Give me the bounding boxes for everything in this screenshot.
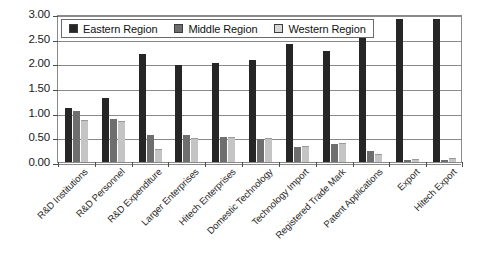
bar-eastern xyxy=(212,63,219,162)
bar-middle xyxy=(331,144,338,162)
bar-western xyxy=(375,154,382,162)
bar-eastern xyxy=(102,98,109,162)
legend-item: Eastern Region xyxy=(69,23,157,35)
bar-western xyxy=(412,159,419,162)
legend-swatch-icon xyxy=(174,24,183,33)
bar-western xyxy=(155,149,162,162)
bar-western xyxy=(81,120,88,162)
y-axis-tick-label: 2.50 xyxy=(4,34,50,46)
y-axis-tick-label: 3.00 xyxy=(4,9,50,21)
legend-label: Western Region xyxy=(288,23,365,35)
x-axis: R&D InstitutionsR&D PersonnelR&D Expendi… xyxy=(57,166,477,262)
legend-swatch-icon xyxy=(274,24,283,33)
bar-middle xyxy=(257,139,264,162)
bar-western xyxy=(118,121,125,162)
bar-middle xyxy=(183,135,190,162)
legend-label: Middle Region xyxy=(188,23,257,35)
bar-middle xyxy=(73,111,80,162)
bar-middle xyxy=(220,137,227,162)
legend-item: Western Region xyxy=(274,23,365,35)
bar-western xyxy=(339,143,346,162)
chart-legend: Eastern RegionMiddle RegionWestern Regio… xyxy=(61,19,374,38)
y-axis-tick-label: 0.50 xyxy=(4,132,50,144)
bar-group xyxy=(396,16,421,162)
legend-label: Eastern Region xyxy=(83,23,157,35)
bar-eastern xyxy=(65,108,72,162)
bar-western xyxy=(228,137,235,162)
bar-eastern xyxy=(323,51,330,162)
y-axis-tick-label: 2.00 xyxy=(4,58,50,70)
bar-middle xyxy=(147,135,154,162)
bar-eastern xyxy=(139,54,146,162)
bar-eastern xyxy=(175,65,182,162)
bar-western xyxy=(449,158,456,162)
y-axis-tick-label: 1.00 xyxy=(4,108,50,120)
bar-middle xyxy=(367,151,374,162)
bar-western xyxy=(302,146,309,162)
bar-chart: 3.002.502.001.501.000.500.00 Eastern Reg… xyxy=(0,0,478,262)
legend-item: Middle Region xyxy=(174,23,257,35)
bar-group xyxy=(433,16,458,162)
bar-middle xyxy=(294,147,301,162)
bar-eastern xyxy=(359,36,366,162)
legend-swatch-icon xyxy=(69,24,78,33)
bar-middle xyxy=(110,119,117,162)
y-axis-tick-label: 0.00 xyxy=(4,157,50,169)
bar-eastern xyxy=(433,19,440,162)
bar-western xyxy=(265,138,272,162)
bar-eastern xyxy=(396,19,403,162)
bar-middle xyxy=(404,160,411,162)
bar-eastern xyxy=(286,44,293,162)
plot-area: Eastern RegionMiddle RegionWestern Regio… xyxy=(57,15,462,163)
y-axis-tick-label: 1.50 xyxy=(4,83,50,95)
bar-western xyxy=(191,138,198,162)
bar-middle xyxy=(441,160,448,162)
bar-eastern xyxy=(249,60,256,162)
